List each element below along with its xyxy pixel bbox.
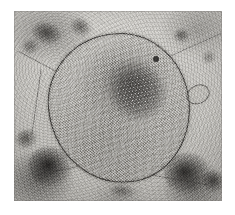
plate-border	[14, 11, 222, 201]
micrograph-page	[0, 0, 235, 215]
micrograph-plate	[14, 11, 222, 201]
